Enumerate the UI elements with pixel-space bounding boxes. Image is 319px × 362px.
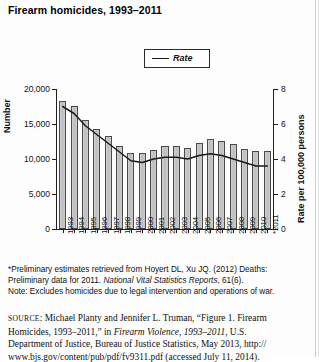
plot-area xyxy=(57,89,273,229)
y-right-label-8: 8 xyxy=(281,85,301,93)
x-label-2006: 2006 xyxy=(214,217,223,234)
source-label: source xyxy=(8,314,40,323)
y-right-label-0: 0 xyxy=(281,225,301,233)
x-label-2003: 2003 xyxy=(180,217,189,234)
source-text-3: Department of Justice, Bureau of Justice… xyxy=(8,339,266,349)
x-label-2007: 2007 xyxy=(225,217,234,234)
y-right-tick-2 xyxy=(273,194,278,195)
page-edge-rule-outer xyxy=(318,0,319,357)
source-text-2c: , U.S. xyxy=(225,327,246,337)
y-left-label-15000: 15,000 xyxy=(6,120,50,128)
y-left-label-5000: 5,000 xyxy=(6,190,50,198)
y-left-tick-10000 xyxy=(52,159,57,160)
y-right-tick-6 xyxy=(273,124,278,125)
note-line-3: Note: Excludes homicides due to legal in… xyxy=(8,286,298,297)
note-line-2: Preliminary data for 2011. National Vita… xyxy=(8,275,298,286)
y-left-tick-15000 xyxy=(52,124,57,125)
source-line-2: Homicides, 1993–2011,” in Firearm Violen… xyxy=(8,326,303,339)
x-label-1999: 1999 xyxy=(134,217,143,234)
legend-label-rate: Rate xyxy=(173,53,193,63)
x-label-2000: 2000 xyxy=(146,217,155,234)
page-title: Firearm homicides, 1993–2011 xyxy=(8,4,162,16)
y-right-label-6: 6 xyxy=(281,120,301,128)
y-right-tick-4 xyxy=(273,159,278,160)
x-label-2011: *2011 xyxy=(271,215,280,234)
source-text-1: Michael Planty and Jennifer L. Truman, “… xyxy=(45,313,267,323)
x-label-2004: 2004 xyxy=(191,217,200,234)
y-left-tick-0 xyxy=(52,229,57,230)
source-text-2a: Homicides, 1993–2011,” in xyxy=(8,327,114,337)
note-line-2-italic: National Vital Statistics Reports xyxy=(103,276,217,285)
x-label-2005: 2005 xyxy=(203,217,212,234)
figure-source: source: Michael Planty and Jennifer L. T… xyxy=(8,312,303,362)
source-line-1: source: Michael Planty and Jennifer L. T… xyxy=(8,312,303,326)
y-axis-right-title: Rate per 100,000 persons xyxy=(296,114,306,223)
source-line-3: Department of Justice, Bureau of Justice… xyxy=(8,338,303,351)
x-label-2002: 2002 xyxy=(168,217,177,234)
source-text-4: www.bjs.gov/content/pub/pdf/fv9311.pdf (… xyxy=(8,352,260,362)
x-tick-1993 xyxy=(63,229,64,233)
y-right-label-2: 2 xyxy=(281,190,301,198)
note-line-1: *Preliminary estimates retrieved from Ho… xyxy=(8,264,298,275)
y-right-label-4: 4 xyxy=(281,155,301,163)
note-line-2-c: , 61(6). xyxy=(218,276,244,285)
note-line-2-a: Preliminary data for 2011. xyxy=(8,276,103,285)
page-edge-rule xyxy=(315,0,316,357)
source-text-2-italic: Firearm Violence, 1993–2011 xyxy=(114,327,226,337)
y-left-tick-20000 xyxy=(52,89,57,90)
x-label-1997: 1997 xyxy=(112,217,121,234)
x-label-1996: 1996 xyxy=(100,217,109,234)
x-label-1998: 1998 xyxy=(123,217,132,234)
y-right-tick-8 xyxy=(273,89,278,90)
x-label-2001: 2001 xyxy=(157,217,166,234)
rate-line-series xyxy=(57,89,273,230)
x-label-1993: 1993 xyxy=(66,217,75,234)
y-left-label-0: 0 xyxy=(6,225,50,233)
legend-line-swatch-icon xyxy=(152,58,169,59)
x-label-2008: 2008 xyxy=(237,217,246,234)
y-left-label-10000: 10,000 xyxy=(6,155,50,163)
x-label-2010: 2010 xyxy=(259,217,268,234)
source-line-4: www.bjs.gov/content/pub/pdf/fv9311.pdf (… xyxy=(8,351,303,362)
figure-notes: *Preliminary estimates retrieved from Ho… xyxy=(8,264,298,297)
chart-legend: Rate xyxy=(144,49,210,68)
x-label-2009: 2009 xyxy=(248,217,257,234)
x-label-1995: 1995 xyxy=(89,217,98,234)
y-left-tick-5000 xyxy=(52,194,57,195)
y-left-label-20000: 20,000 xyxy=(6,85,50,93)
x-label-1994: 1994 xyxy=(77,217,86,234)
